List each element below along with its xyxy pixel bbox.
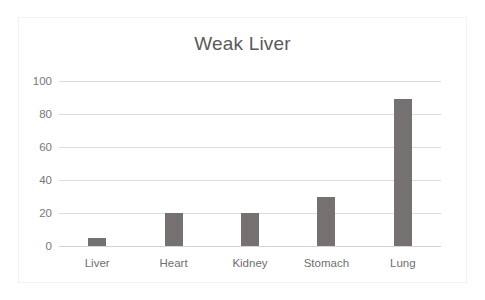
y-axis-tick-label: 0 bbox=[46, 240, 52, 252]
bar-slot bbox=[365, 81, 441, 246]
y-axis-tick-label: 20 bbox=[39, 207, 52, 219]
bar-slot bbox=[212, 81, 288, 246]
bar[interactable] bbox=[88, 238, 106, 246]
chart-title: Weak Liver bbox=[19, 33, 466, 55]
y-axis-tick-label: 60 bbox=[39, 141, 52, 153]
bar-slot bbox=[288, 81, 364, 246]
bar[interactable] bbox=[317, 197, 335, 247]
bar[interactable] bbox=[394, 99, 412, 246]
plot-area: 020406080100 LiverHeartKidneyStomachLung bbox=[59, 81, 441, 246]
bar[interactable] bbox=[241, 213, 259, 246]
y-axis-tick-label: 100 bbox=[33, 75, 52, 87]
x-axis-tick-label: Lung bbox=[333, 257, 473, 269]
bar-slot bbox=[135, 81, 211, 246]
bars-group bbox=[59, 81, 441, 246]
y-axis-tick-label: 40 bbox=[39, 174, 52, 186]
chart-frame: Weak Liver 020406080100 LiverHeartKidney… bbox=[18, 17, 467, 283]
gridline bbox=[59, 246, 441, 247]
y-axis-tick-label: 80 bbox=[39, 108, 52, 120]
bar-slot bbox=[59, 81, 135, 246]
bar[interactable] bbox=[165, 213, 183, 246]
